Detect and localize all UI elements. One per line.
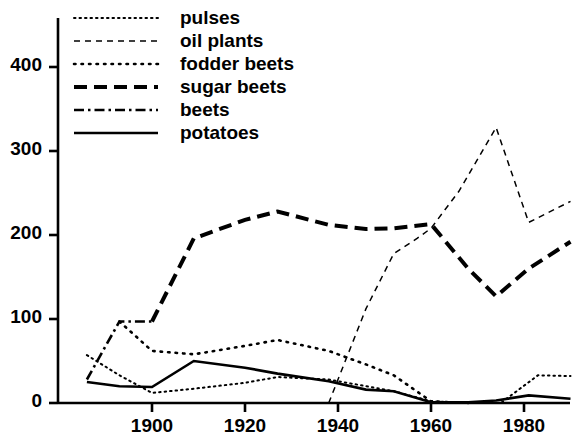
chart-legend: pulsesoil plantsfodder beetssugar beetsb… [72,6,294,144]
x-tick-label: 1980 [484,415,564,434]
legend-label: beets [180,100,230,120]
legend-item-potatoes[interactable]: potatoes [72,121,294,144]
legend-label: sugar beets [180,77,287,97]
series-line-potatoes [87,361,571,402]
legend-swatch-dash-dot-icon [72,100,160,120]
chart-root: 010020030040019001920194019601980pulseso… [0,0,576,434]
legend-item-beets[interactable]: beets [72,98,294,121]
legend-item-sugar-beets[interactable]: sugar beets [72,75,294,98]
y-tick-label: 200 [0,222,42,244]
y-tick-label: 300 [0,138,42,160]
y-tick-label: 100 [0,306,42,328]
series-line-beets [87,322,152,380]
legend-swatch-long-dashed-icon [72,77,160,97]
series-line-sugar-beets [152,212,571,322]
legend-item-fodder-beets[interactable]: fodder beets [72,52,294,75]
legend-swatch-dashed-fine-icon [72,31,160,51]
legend-swatch-dotted-icon [72,54,160,74]
x-tick-label: 1960 [391,415,471,434]
legend-swatch-fine-dotted-icon [72,8,160,28]
legend-item-oil-plants[interactable]: oil plants [72,29,294,52]
legend-label: potatoes [180,123,259,143]
x-tick-label: 1900 [112,415,192,434]
legend-swatch-solid-icon [72,123,160,143]
y-tick-label: 0 [0,390,42,412]
y-tick-label: 400 [0,54,42,76]
legend-label: pulses [180,8,240,28]
series-line-pulses [87,355,571,403]
x-tick-label: 1940 [298,415,378,434]
legend-item-pulses[interactable]: pulses [72,6,294,29]
legend-label: oil plants [180,31,263,51]
legend-label: fodder beets [180,54,294,74]
x-tick-label: 1920 [205,415,285,434]
